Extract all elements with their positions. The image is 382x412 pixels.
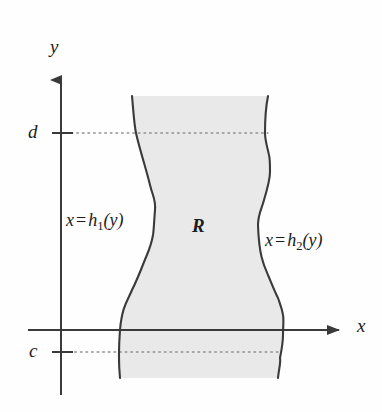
right-curve-equation-label: x=h2(y) [265,231,322,252]
left-eq-equals: = [74,210,88,230]
tick-label-c: c [29,341,37,360]
tick-label-d: d [28,122,38,141]
right-eq-variable: x [265,230,273,250]
x-axis-label: x [357,316,365,335]
figure-container: y x d c R x=h1(y) x=h2(y) [0,0,382,412]
left-eq-variable: x [66,210,74,230]
right-eq-function: h [287,230,296,250]
region-label-R: R [192,216,205,235]
right-eq-argument: (y) [302,230,322,250]
region-diagram-svg [0,0,382,412]
right-eq-equals: = [273,230,287,250]
left-curve-equation-label: x=h1(y) [66,211,123,232]
left-eq-function: h [88,210,97,230]
y-axis-label: y [50,37,58,56]
left-eq-argument: (y) [103,210,123,230]
